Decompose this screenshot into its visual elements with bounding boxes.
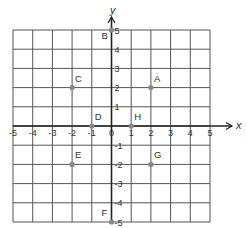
x-tick-label: 3 — [168, 128, 173, 138]
y-tick-label: 5 — [115, 26, 120, 36]
y-tick-label: 3 — [115, 64, 120, 74]
x-tick-label: -1 — [88, 128, 96, 138]
x-tick-label: 1 — [129, 128, 134, 138]
x-tick-label: -3 — [48, 128, 56, 138]
point-marker-icon — [148, 162, 153, 167]
coordinate-plane: -5-4-3-2-101234554321-1-2-3-4-5 ABCDEFGH… — [0, 0, 247, 227]
point-marker-icon — [70, 162, 75, 167]
x-tick-label: 0 — [109, 128, 114, 138]
y-tick-label: -4 — [115, 198, 123, 208]
y-tick-label: 1 — [115, 102, 120, 112]
point-marker-icon — [109, 27, 114, 32]
x-tick-label: -2 — [68, 128, 76, 138]
x-tick-label: 5 — [207, 128, 212, 138]
y-tick-label: -2 — [115, 160, 123, 170]
y-tick-label: -5 — [115, 218, 123, 228]
point-label: B — [102, 30, 108, 41]
point-label: E — [75, 149, 81, 160]
point-label: H — [134, 111, 141, 122]
point-marker-icon — [148, 85, 153, 90]
point-marker-icon — [70, 85, 75, 90]
point-marker-icon — [109, 219, 114, 224]
y-tick-label: 4 — [115, 45, 120, 55]
x-axis-label: x — [235, 119, 242, 131]
point-label: A — [154, 73, 161, 84]
point-label: G — [154, 149, 161, 160]
x-tick-label: -5 — [9, 128, 17, 138]
y-tick-label: 2 — [115, 83, 120, 93]
y-tick-label: -1 — [115, 141, 123, 151]
point-label: F — [102, 207, 108, 218]
y-tick-label: -3 — [115, 179, 123, 189]
x-tick-label: 4 — [188, 128, 193, 138]
y-axis-label: y — [109, 4, 117, 16]
axes — [13, 17, 232, 222]
point-label: C — [75, 73, 82, 84]
point-label: D — [95, 111, 102, 122]
x-tick-label: -4 — [29, 128, 37, 138]
x-tick-label: 2 — [148, 128, 153, 138]
point-marker-icon — [129, 123, 134, 128]
point-marker-icon — [89, 123, 94, 128]
